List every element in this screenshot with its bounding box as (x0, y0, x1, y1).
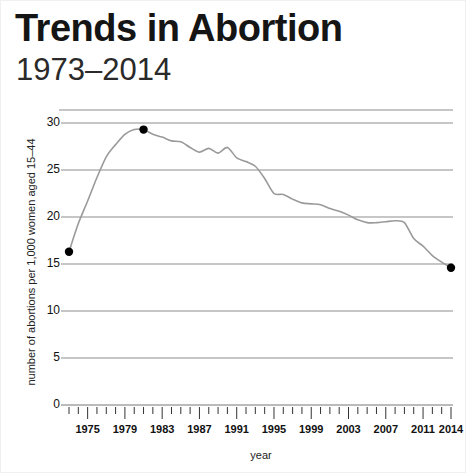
x-tick-label: 2011 (411, 423, 435, 435)
y-tick-label: 25 (34, 162, 60, 176)
x-axis-title: year (61, 449, 461, 461)
data-line-series (69, 129, 451, 268)
x-tick-label: 1987 (187, 423, 211, 435)
chart-page: Trends in Abortion 1973–2014 number of a… (0, 0, 466, 473)
x-tick-label: 2003 (336, 423, 360, 435)
data-point-marker-start (65, 248, 73, 256)
y-tick-label: 5 (34, 350, 60, 364)
x-tick-label: 1983 (150, 423, 174, 435)
x-tick-label: 1975 (75, 423, 99, 435)
chart-plot-area (1, 1, 466, 473)
data-point-marker-end (447, 264, 455, 272)
y-tick-label: 20 (34, 209, 60, 223)
x-tick-label: 1991 (224, 423, 248, 435)
x-tick-label: 1995 (262, 423, 286, 435)
x-tick-label: 1999 (299, 423, 323, 435)
line-chart-svg (1, 1, 466, 473)
y-tick-label: 30 (34, 115, 60, 129)
x-tick-label: 1979 (113, 423, 137, 435)
x-tick-label: 2014 (439, 423, 463, 435)
y-tick-label: 0 (34, 397, 60, 411)
x-tick-label: 2007 (374, 423, 398, 435)
data-point-marker-peak (139, 125, 147, 133)
y-tick-label: 10 (34, 303, 60, 317)
y-tick-label: 15 (34, 256, 60, 270)
